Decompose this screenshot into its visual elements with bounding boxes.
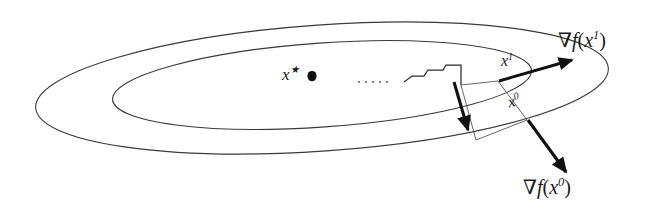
iterate-x1-label: x1 xyxy=(501,53,513,69)
gradient-x1-label: ∇f(x1) xyxy=(558,30,606,50)
zigzag-descent-path xyxy=(404,65,461,85)
construction-line-upper-tie xyxy=(461,81,498,85)
gradient-arrow-x0 xyxy=(528,120,566,172)
optimum-dot xyxy=(307,71,316,81)
gradient-x0-label: ∇f(x0) xyxy=(523,177,571,197)
optimum-label: x★ xyxy=(282,66,299,83)
nabla-icon: ∇ xyxy=(523,175,537,199)
inner-contour-ellipse xyxy=(110,28,535,141)
contour-descent-figure: x★ x1 x0 ∇f(x1) ∇f(x0) xyxy=(0,0,656,219)
nabla-icon: ∇ xyxy=(558,28,572,52)
iteration-ellipsis-dots xyxy=(358,81,388,83)
